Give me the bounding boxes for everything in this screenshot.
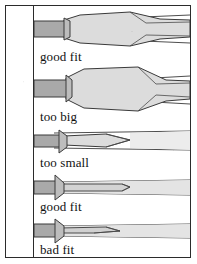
row-5-caption: bad fit: [40, 243, 74, 256]
row-3-caption: too small: [40, 156, 89, 169]
row-2-caption: too big: [40, 110, 77, 123]
row-3-illustration: [34, 124, 190, 158]
row-1-illustration: [34, 6, 190, 52]
figure-screwdriver-fit: good fit too big: [0, 0, 197, 264]
row-1-caption: good fit: [40, 50, 82, 63]
row-2: too big: [34, 64, 190, 126]
row-5: bad fit: [34, 215, 190, 257]
row-4-illustration: [34, 172, 190, 202]
row-3: too small: [34, 124, 190, 174]
row-2-illustration: [34, 64, 190, 112]
row-4-caption: good fit: [40, 200, 82, 213]
row-1: good fit: [34, 6, 190, 66]
row-5-illustration: [34, 215, 190, 245]
drawing-column: good fit too big: [34, 6, 190, 257]
row-4: good fit: [34, 172, 190, 218]
